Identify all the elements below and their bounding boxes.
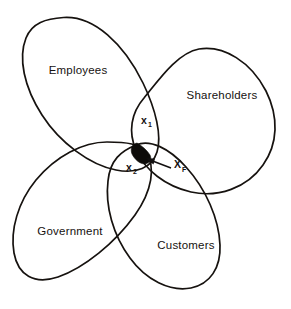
region-label-x1-subscript: 1 bbox=[148, 121, 152, 128]
set-label-government: Government bbox=[37, 225, 103, 237]
set-label-shareholders: Shareholders bbox=[187, 89, 258, 101]
region-label-xf-subscript: F bbox=[182, 166, 187, 173]
region-label-x2: x 2 bbox=[126, 161, 137, 175]
set-outline-shareholders[interactable] bbox=[132, 48, 275, 193]
venn-diagram-svg: Employees Shareholders Government Custom… bbox=[0, 0, 291, 309]
feasible-core-region bbox=[131, 143, 151, 164]
region-label-x1: x 1 bbox=[141, 114, 152, 128]
venn-diagram-canvas: Employees Shareholders Government Custom… bbox=[0, 0, 291, 309]
region-label-x2-base: x bbox=[126, 161, 132, 173]
region-label-xf-base: X bbox=[174, 158, 181, 170]
region-label-x1-base: x bbox=[141, 114, 147, 126]
set-label-employees: Employees bbox=[49, 64, 108, 76]
set-label-customers: Customers bbox=[157, 239, 214, 251]
region-label-xf: X F bbox=[174, 158, 187, 173]
region-label-x2-subscript: 2 bbox=[133, 168, 137, 175]
